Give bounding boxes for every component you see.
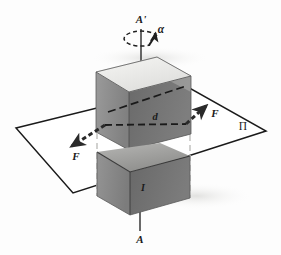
physics-diagram-figure: A' A α F F d I Π	[0, 0, 281, 255]
label-force-right: F	[210, 107, 219, 119]
label-plane-pi: Π	[239, 120, 247, 132]
open-box-upper	[96, 57, 191, 150]
label-distance-d: d	[152, 111, 158, 122]
label-axis-top: A'	[135, 13, 146, 25]
diagram-canvas: A' A α F F d I Π	[0, 0, 281, 255]
label-axis-bottom: A	[135, 233, 143, 245]
label-rotation-angle: α	[158, 23, 165, 35]
label-force-left: F	[71, 150, 80, 162]
